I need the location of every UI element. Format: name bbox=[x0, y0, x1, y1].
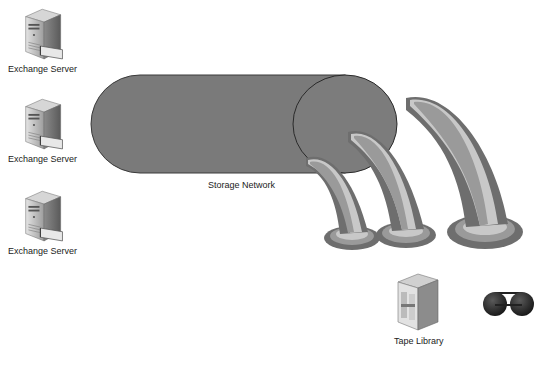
exchange-server-label-3: Exchange Server bbox=[8, 246, 77, 256]
exchange-server-icon-2 bbox=[26, 99, 63, 149]
storage-network-label: Storage Network bbox=[208, 180, 275, 190]
tape-library-label: Tape Library bbox=[394, 336, 444, 346]
tape-library-icon bbox=[398, 274, 438, 330]
diagram-canvas bbox=[0, 0, 548, 380]
exchange-server-icon-1 bbox=[26, 9, 63, 59]
exchange-server-label-1: Exchange Server bbox=[8, 64, 77, 74]
exchange-server-label-2: Exchange Server bbox=[8, 154, 77, 164]
storage-network-pipe bbox=[91, 75, 397, 173]
exchange-server-icon-3 bbox=[26, 191, 63, 241]
